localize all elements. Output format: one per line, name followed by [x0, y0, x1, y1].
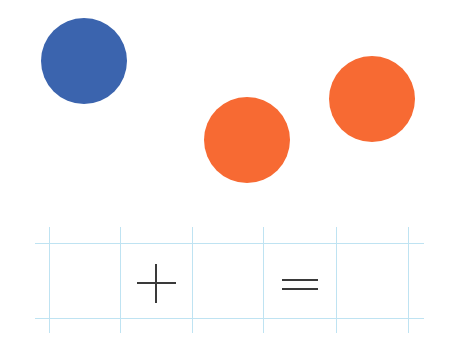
answer-box-2[interactable] [193, 244, 263, 318]
grid-line-bottom [35, 318, 424, 319]
equation-grid [0, 0, 472, 352]
grid-line-v6 [408, 227, 409, 333]
plus-vertical-stroke [155, 264, 157, 303]
equals-sign [264, 244, 336, 318]
equals-top-bar [282, 279, 318, 281]
plus-sign [121, 244, 192, 318]
answer-box-1[interactable] [50, 244, 120, 318]
equals-bottom-bar [282, 288, 318, 290]
answer-box-result[interactable] [337, 244, 408, 318]
